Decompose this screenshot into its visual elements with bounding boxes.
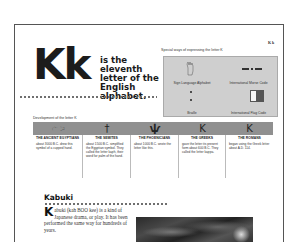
morse-code-cell: International Morse Code — [220, 59, 277, 85]
column-heading: THE GREEKS — [181, 137, 223, 141]
morse-code-label: International Morse Code — [220, 81, 277, 85]
kabuki-title: Kabuki — [44, 193, 73, 202]
phoenician-glyph-icon: ѱ — [131, 122, 179, 135]
column-phoenicians: THE PHOENICIANS about 1000 B.C. wrote th… — [131, 135, 179, 178]
sign-language-cell: Sign Language Alphabet — [166, 59, 218, 85]
column-body: about 3000 B.C. drew this symbol of a cu… — [35, 142, 80, 150]
development-columns: THE ANCIENT EGYPTIANS about 3000 B.C. dr… — [33, 135, 273, 178]
kabuki-photo — [136, 217, 253, 242]
kabuki-body: K abuki (kah BOO kee) is a kind of Japan… — [44, 207, 132, 233]
column-semites: THE SEMITES about 1500 B.C. simplified t… — [83, 135, 131, 178]
column-body: began using the Greek letter about A.D. … — [228, 142, 271, 150]
column-heading: THE PHOENICIANS — [133, 137, 176, 141]
development-title: Development of the letter K — [33, 116, 77, 120]
flag-code-cell: International Flag Code — [220, 87, 277, 115]
braille-cell: Braille — [166, 87, 218, 115]
special-ways-box: Sign Language Alphabet International Mor… — [163, 56, 278, 117]
roman-glyph-icon: K — [226, 122, 273, 135]
column-greeks: THE GREEKS gave the letter its present f… — [179, 135, 226, 178]
column-heading: THE ROMANS — [228, 137, 271, 141]
column-body: gave the letter its present form about 6… — [181, 142, 223, 154]
semitic-glyph-icon: † — [83, 122, 131, 135]
dotted-divider — [44, 203, 168, 205]
column-egyptians: THE ANCIENT EGYPTIANS about 3000 B.C. dr… — [33, 135, 83, 178]
corner-label: K k — [268, 40, 274, 45]
kabuki-body-text: abuki (kah BOO kee) is a kind of Japanes… — [44, 207, 128, 233]
column-heading: THE ANCIENT EGYPTIANS — [35, 137, 80, 141]
morse-code-icon — [242, 68, 264, 71]
flag-icon — [250, 90, 264, 102]
greek-glyph-icon: K — [179, 122, 226, 135]
column-heading: THE SEMITES — [85, 137, 128, 141]
dotted-divider — [19, 96, 157, 98]
braille-label: Braille — [166, 111, 218, 115]
drop-cap: K — [44, 207, 53, 217]
flag-code-label: International Flag Code — [220, 111, 277, 115]
column-body: about 1500 B.C. simplified the Egyptian … — [85, 142, 128, 158]
column-romans: THE ROMANS began using the Greek letter … — [226, 135, 273, 178]
egyptian-glyph-icon: 𓂧 — [33, 122, 83, 135]
column-body: about 1000 B.C. wrote the letter like th… — [133, 142, 176, 150]
special-ways-title: Special ways of expressing the letter K — [161, 48, 223, 52]
big-letter: Kk — [33, 44, 89, 86]
hand-sign-icon — [185, 61, 195, 76]
sign-language-label: Sign Language Alphabet — [166, 81, 218, 85]
intro-text: is the eleventh letter of the English al… — [100, 56, 160, 101]
